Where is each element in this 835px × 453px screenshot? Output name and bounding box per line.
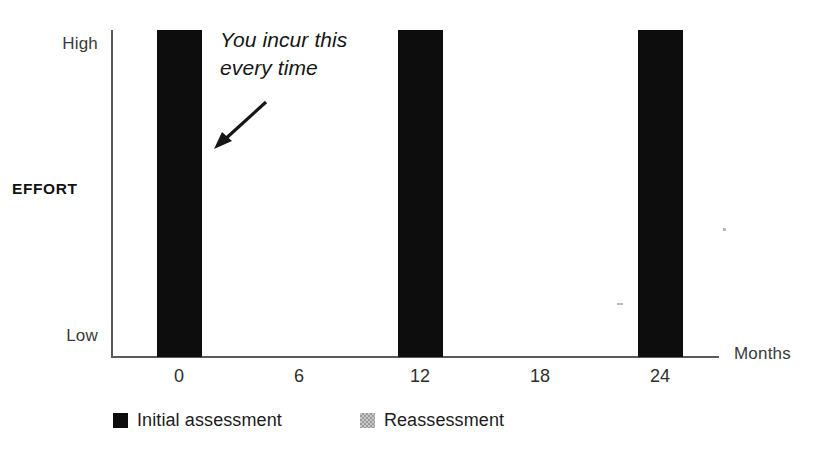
legend-swatch-stipple-icon: [360, 413, 375, 428]
annotation-line-1: You incur this: [220, 26, 410, 54]
chart-canvas: High EFFORT Low 0 6 12 18 24 Months You …: [0, 0, 835, 453]
x-tick-label-24: 24: [630, 366, 690, 387]
legend-label-reassessment: Reassessment: [384, 410, 504, 431]
legend-item-initial-assessment: Initial assessment: [113, 410, 282, 431]
y-axis-label-high: High: [12, 34, 98, 54]
x-tick-label-6: 6: [269, 366, 329, 387]
bar-initial-assessment-month-0: [157, 30, 202, 357]
chart-legend: Initial assessment Reassessment: [113, 410, 504, 431]
x-tick-label-12: 12: [390, 366, 450, 387]
x-tick-label-18: 18: [510, 366, 570, 387]
x-axis-title: Months: [734, 344, 791, 364]
annotation-line-2: every time: [220, 54, 410, 82]
y-axis-title: EFFORT: [12, 180, 98, 198]
scan-speck: [617, 303, 623, 305]
annotation-text: You incur this every time: [220, 26, 410, 83]
legend-item-reassessment: Reassessment: [360, 410, 504, 431]
y-axis-label-low: Low: [12, 326, 98, 346]
y-axis-line: [111, 30, 113, 358]
bar-initial-assessment-month-24: [638, 30, 683, 357]
annotation-arrow-icon: [200, 96, 280, 156]
legend-swatch-solid-icon: [113, 413, 128, 428]
legend-label-initial-assessment: Initial assessment: [137, 410, 282, 431]
x-tick-label-0: 0: [149, 366, 209, 387]
scan-speck: [723, 228, 726, 231]
